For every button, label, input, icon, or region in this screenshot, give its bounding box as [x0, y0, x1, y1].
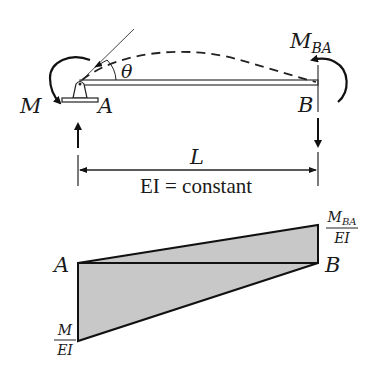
deflected-shape [82, 52, 316, 82]
end-b-label: B [297, 93, 313, 117]
support-a-label: A [96, 94, 113, 118]
point-b-label: B [324, 253, 340, 277]
diagram-canvas: M A θ B MBA L EI = constant A B M EI MBA… [0, 0, 377, 374]
upper-triangle [78, 225, 318, 263]
moment-diagram [78, 225, 318, 341]
beam [80, 80, 318, 85]
point-a-label: A [52, 253, 69, 277]
moment-b-label: MBA [289, 29, 332, 56]
svg-text:M: M [57, 322, 73, 338]
lower-triangle [78, 263, 318, 341]
right-ordinate-label: MBA EI [326, 209, 358, 246]
svg-text:EI: EI [333, 230, 350, 246]
svg-text:MBA: MBA [327, 209, 357, 227]
theta-label: θ [121, 60, 133, 82]
stiffness-label: EI = constant [140, 174, 252, 198]
span-label: L [189, 145, 204, 169]
moment-a-label: M [19, 94, 42, 118]
svg-text:EI: EI [56, 342, 73, 358]
left-ordinate-label: M EI [54, 322, 76, 358]
